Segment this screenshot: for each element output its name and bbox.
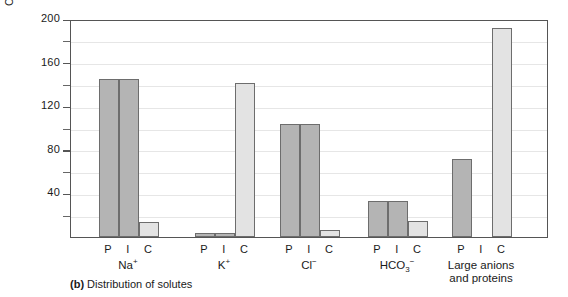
bar-K-C [235,83,255,237]
x-sub-label-I: I [217,243,231,255]
gridline [71,64,547,65]
y-tick-minor [63,216,70,217]
x-group-label: Large anionsand proteins [421,259,541,285]
bar-Largeanionsandproteins-P [452,159,472,237]
bar-Na-I [119,79,139,237]
y-axis-title: Concentration (mmol / L) [0,0,18,56]
bar-Cl-P [280,124,300,237]
x-sub-label-C: C [237,243,251,255]
gridline [71,86,547,87]
x-sub-label-C: C [141,243,155,255]
x-sub-label-P: P [101,243,115,255]
y-tick-minor [63,41,70,42]
x-sub-label-I: I [302,243,316,255]
plot-area [70,20,548,238]
bar-HCO3-P [368,201,388,237]
y-tick-major [63,150,70,151]
bar-Largeanionsandproteins-C [492,28,512,237]
bar-Cl-I [300,124,320,237]
bar-HCO3-I [388,201,408,237]
caption-text: Distribution of solutes [87,278,192,290]
y-tick-label: 120 [20,99,60,111]
y-tick-label: 200 [20,12,60,24]
y-tick-label: 80 [20,143,60,155]
x-sub-label-I: I [390,243,404,255]
caption-marker: (b) [70,278,84,290]
gridline [71,108,547,109]
x-sub-label-C: C [410,243,424,255]
x-sub-label-I: I [474,243,488,255]
figure-caption: (b) Distribution of solutes [70,278,192,290]
y-tick-label: 160 [20,56,60,68]
y-tick-minor [63,172,70,173]
x-sub-label-I: I [121,243,135,255]
bar-Na-P [99,79,119,237]
bar-Cl-C [320,230,340,237]
x-sub-label-P: P [370,243,384,255]
x-sub-label-P: P [282,243,296,255]
bar-K-P [195,233,215,237]
bar-HCO3-C [408,221,428,237]
y-tick-major [63,63,70,64]
y-tick-label: 40 [20,186,60,198]
y-tick-minor [63,129,70,130]
x-sub-label-C: C [322,243,336,255]
y-tick-major [63,107,70,108]
y-tick-minor [63,85,70,86]
gridline [71,42,547,43]
x-sub-label-P: P [197,243,211,255]
figure-distribution-of-solutes: Concentration (mmol / L) 2001601208040 P… [0,0,568,297]
bar-K-I [215,233,235,237]
x-sub-label-C: C [494,243,508,255]
y-tick-major [63,20,70,21]
bar-Na-C [139,222,159,237]
y-tick-major [63,194,70,195]
x-sub-label-P: P [454,243,468,255]
